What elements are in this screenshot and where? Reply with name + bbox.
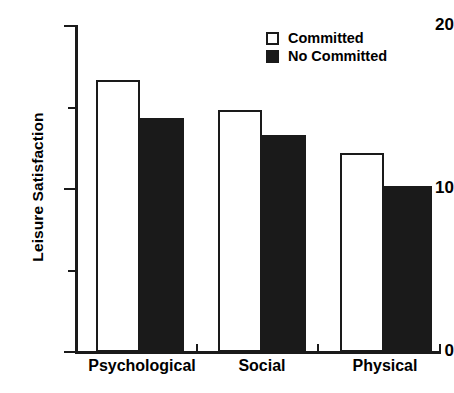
bar-social-committed <box>218 110 262 352</box>
x-tick-6 <box>439 344 441 353</box>
bar-social-no-committed <box>262 135 306 352</box>
x-label-physical: Physical <box>325 357 445 375</box>
bar-physical-no-committed <box>384 186 432 352</box>
y-axis-title: Leisure Satisfaction <box>29 77 47 297</box>
bar-psychological-committed <box>96 80 140 352</box>
x-label-social: Social <box>203 357 321 375</box>
legend-swatch-filled-icon <box>266 50 279 63</box>
legend: Committed No Committed <box>266 30 387 66</box>
bar-physical-committed <box>340 153 384 352</box>
y-tick-5 <box>68 270 76 272</box>
x-tick-4 <box>317 344 319 353</box>
bar-psychological-no-committed <box>140 118 184 352</box>
y-tick-15 <box>68 107 76 109</box>
x-label-psychological: Psychological <box>62 357 222 375</box>
y-tick-10 <box>64 188 76 190</box>
legend-item-committed: Committed <box>266 30 387 47</box>
bar-chart: Leisure Satisfaction 20 10 0 Psychologic… <box>0 0 454 393</box>
legend-label-committed: Committed <box>288 31 364 46</box>
legend-swatch-open-icon <box>266 32 279 45</box>
legend-item-no-committed: No Committed <box>266 48 387 65</box>
x-tick-0 <box>75 344 77 353</box>
legend-label-no-committed: No Committed <box>288 49 387 64</box>
x-tick-2 <box>196 344 198 353</box>
y-tick-20 <box>64 25 76 27</box>
y-tick-label-20: 20 <box>392 16 454 33</box>
